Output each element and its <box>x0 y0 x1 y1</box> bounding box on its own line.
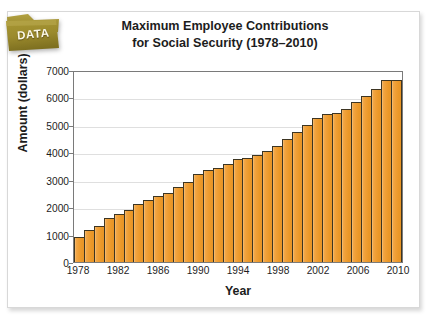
x-tick-label-1998: 1998 <box>267 265 290 276</box>
y-tick-label-1000: 1000 <box>25 230 69 241</box>
x-tick-label-1994: 1994 <box>227 265 250 276</box>
x-tick-label-1978: 1978 <box>67 265 90 276</box>
bar-2010 <box>391 80 402 262</box>
chart-title-line-1: Maximum Employee Contributions <box>60 18 390 35</box>
x-tick-label-1986: 1986 <box>147 265 170 276</box>
y-tick-label-3000: 3000 <box>25 175 69 186</box>
x-tick-label-1990: 1990 <box>187 265 210 276</box>
y-tick-label-5000: 5000 <box>25 120 69 131</box>
plot-wrap <box>73 71 403 263</box>
folder-tab-icon <box>4 8 62 52</box>
chart-title: Maximum Employee Contributions for Socia… <box>60 18 390 52</box>
y-tick-label-7000: 7000 <box>25 66 69 77</box>
x-axis-ticks: 197819821986199019941998200220062010 <box>73 263 403 281</box>
y-tick-label-0: 0 <box>25 258 69 269</box>
bar-series <box>74 72 402 262</box>
y-tick-label-2000: 2000 <box>25 203 69 214</box>
x-tick-label-1982: 1982 <box>107 265 130 276</box>
data-folder-tab-badge: DATA <box>4 8 62 52</box>
y-tick-label-6000: 6000 <box>25 93 69 104</box>
plot-area <box>73 71 403 263</box>
x-axis-title: Year <box>73 284 403 298</box>
chart-title-line-2: for Social Security (1978–2010) <box>60 35 390 52</box>
x-tick-label-2010: 2010 <box>387 265 410 276</box>
y-tick-label-4000: 4000 <box>25 148 69 159</box>
x-tick-label-2002: 2002 <box>307 265 330 276</box>
x-tick-label-2006: 2006 <box>347 265 370 276</box>
